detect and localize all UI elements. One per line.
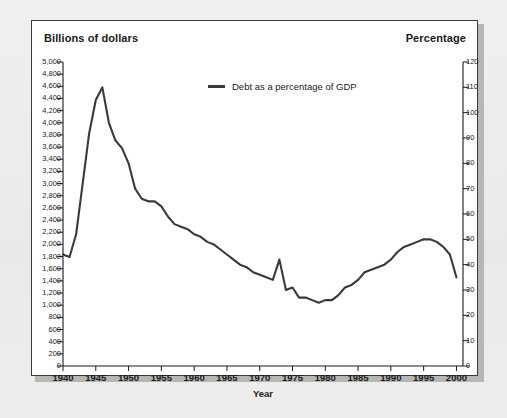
left-tick-label: 400	[48, 338, 61, 346]
right-tick-label: 40	[466, 261, 474, 269]
left-tick-label: 1,000	[42, 301, 61, 309]
right-tick-label: 80	[466, 159, 474, 167]
left-tick-label: 4,200	[42, 107, 61, 115]
x-tick-label: 1945	[85, 372, 106, 383]
left-tick-label: 1,800	[42, 253, 61, 261]
right-tick-label: 20	[466, 311, 474, 319]
chart-panel: Billions of dollars Percentage Debt as a…	[31, 20, 478, 376]
left-tick-label: 3,200	[42, 167, 61, 175]
x-tick-label: 1955	[151, 372, 172, 383]
right-tick-label: 100	[466, 109, 479, 117]
x-axis-title: Year	[253, 388, 273, 399]
left-tick-label: 2,400	[42, 216, 61, 224]
left-tick-label: 2,000	[42, 240, 61, 248]
x-tick-label: 1960	[184, 372, 205, 383]
right-tick-label: 60	[466, 210, 474, 218]
left-tick-label: 2,200	[42, 228, 61, 236]
left-tick-label: 4,000	[42, 119, 61, 127]
x-tick-label: 1965	[216, 372, 237, 383]
right-tick-label: 30	[466, 286, 474, 294]
left-tick-label: 1,400	[42, 277, 61, 285]
right-tick-label: 10	[466, 337, 474, 345]
right-tick-label: 70	[466, 185, 474, 193]
left-tick-label: 4,800	[42, 70, 61, 78]
right-tick-label: 110	[466, 83, 478, 91]
left-tick-label: 200	[48, 350, 61, 358]
x-tick-label: 2000	[446, 372, 467, 383]
right-tick-label: 50	[466, 235, 474, 243]
x-tick-label: 1970	[249, 372, 270, 383]
left-tick-label: 3,800	[42, 131, 61, 139]
left-tick-label: 3,400	[42, 155, 61, 163]
x-tick-label: 1985	[348, 372, 369, 383]
right-axis-header: Percentage	[406, 32, 466, 44]
left-tick-label: 4,400	[42, 94, 61, 102]
left-tick-label: 4,600	[42, 82, 61, 90]
x-tick-label: 1940	[52, 372, 73, 383]
left-tick-label: 5,000	[42, 58, 61, 66]
left-axis-header: Billions of dollars	[44, 32, 138, 44]
left-tick-label: 1,200	[42, 289, 61, 297]
x-tick-label: 1990	[380, 372, 401, 383]
left-tick-label: 800	[48, 313, 61, 321]
left-tick-label: 2,800	[42, 192, 61, 200]
right-tick-label: 0	[466, 362, 470, 370]
right-tick-label: 120	[466, 58, 479, 66]
x-tick-label: 1975	[282, 372, 303, 383]
left-tick-label: 2,600	[42, 204, 61, 212]
x-tick-label: 1980	[315, 372, 336, 383]
left-tick-label: 1,600	[42, 265, 61, 273]
x-tick-label: 1995	[413, 372, 434, 383]
plot-area: 02004006008001,0001,2001,4001,6001,8002,…	[63, 62, 463, 366]
left-tick-label: 0	[57, 362, 61, 370]
left-tick-label: 3,600	[42, 143, 61, 151]
x-tick-label: 1950	[118, 372, 139, 383]
series-layer	[63, 62, 463, 366]
left-tick-label: 600	[48, 326, 61, 334]
right-tick-label: 90	[466, 134, 474, 142]
series-line-debt-pct-gdp	[63, 87, 456, 302]
figure-root: Billions of dollars Percentage Debt as a…	[0, 0, 507, 418]
left-tick-label: 3,000	[42, 180, 61, 188]
